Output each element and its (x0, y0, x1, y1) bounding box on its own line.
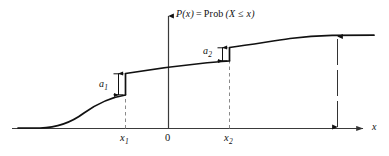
x-axis-title: x (372, 122, 377, 132)
curve-segment-right (230, 35, 375, 47)
y-axis-title: P(x)=Prob(X ≤ x) (176, 9, 255, 19)
tick-label-x1-sub: 1 (125, 137, 129, 146)
curve-segment-middle (126, 61, 230, 74)
jump-label-a1-sub: 1 (104, 83, 108, 92)
jump-label-a2-sub: 2 (208, 50, 212, 59)
cdf-figure: P(x)=Prob(X ≤ x) x x1 0 x2 a1 a2 (0, 0, 389, 156)
tick-label-x1-base: x (120, 132, 125, 143)
y-axis-title-equals: = (196, 8, 202, 19)
figure-canvas (0, 0, 389, 156)
curve-segment-left (18, 95, 126, 128)
tick-label-x1: x1 (120, 133, 128, 144)
y-axis-title-p: P(x) (176, 8, 194, 19)
jump-label-a1: a1 (99, 79, 108, 89)
tick-label-x2: x2 (224, 133, 232, 144)
jump-label-a2: a2 (203, 46, 212, 56)
tick-label-x2-sub: 2 (229, 137, 233, 146)
tick-label-origin: 0 (165, 133, 170, 144)
y-axis-title-condition: (X ≤ x) (226, 8, 255, 19)
tick-label-x2-base: x (224, 132, 229, 143)
y-axis-title-prob: Prob (204, 8, 224, 19)
